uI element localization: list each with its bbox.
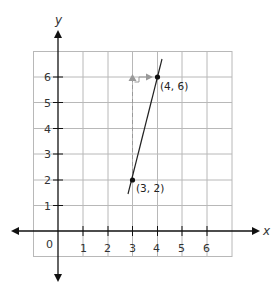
x-axis-label: x — [262, 224, 271, 238]
x-tick-6: 6 — [203, 242, 210, 255]
y-tick-6: 6 — [44, 71, 51, 84]
y-axis-label: y — [54, 13, 63, 27]
x-axis-right-arrow-icon — [252, 227, 260, 235]
y-tick-2: 2 — [44, 174, 51, 187]
y-axis-up-arrow-icon — [54, 30, 62, 38]
y-tick-5: 5 — [44, 97, 51, 110]
point-4-6 — [155, 74, 160, 79]
y-axis: y 6 5 4 3 2 1 0 — [44, 13, 63, 282]
point-label-4-6: (4, 6) — [160, 80, 188, 92]
grid — [34, 52, 233, 257]
y-tick-1: 1 — [44, 200, 51, 213]
run-arrow-icon — [146, 74, 153, 81]
y-tick-4: 4 — [44, 123, 51, 136]
origin-label: 0 — [46, 238, 53, 251]
coordinate-plane: x 1 2 3 4 5 6 y 6 5 4 3 2 1 0 — [0, 0, 272, 284]
point-label-3-2: (3, 2) — [136, 182, 164, 194]
x-tick-1: 1 — [80, 242, 87, 255]
x-axis-left-arrow-icon — [11, 227, 19, 235]
x-tick-5: 5 — [178, 242, 185, 255]
x-tick-2: 2 — [104, 242, 111, 255]
y-tick-3: 3 — [44, 148, 51, 161]
point-3-2 — [130, 177, 135, 182]
x-tick-4: 4 — [153, 242, 160, 255]
y-axis-down-arrow-icon — [54, 274, 62, 282]
x-tick-3: 3 — [129, 242, 136, 255]
